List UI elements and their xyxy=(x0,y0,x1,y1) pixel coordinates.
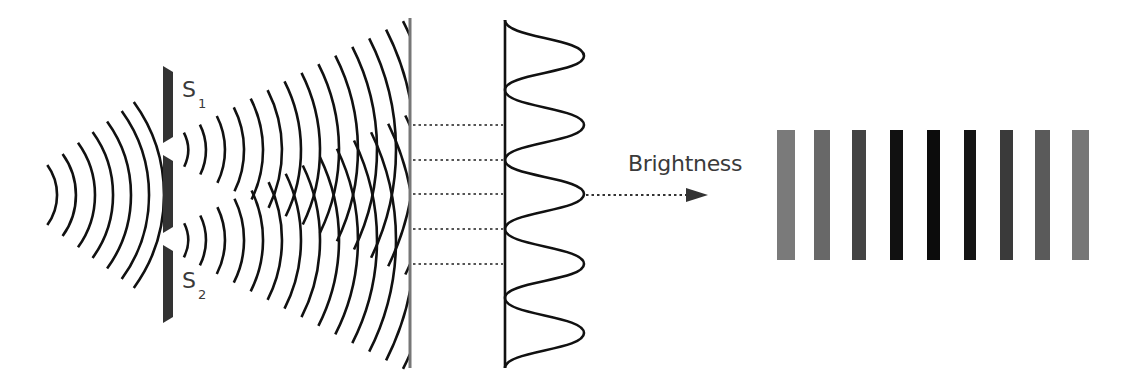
diffracted-arc xyxy=(369,132,396,352)
diffracted-arc xyxy=(184,223,188,257)
fringe-bar xyxy=(777,130,795,260)
fringe-bar xyxy=(814,130,830,260)
fringe-bar xyxy=(927,130,940,260)
brightness-arrow-icon xyxy=(586,188,708,202)
arrow-head-icon xyxy=(686,188,708,202)
diffracted-arc xyxy=(268,182,282,300)
diffracted-arc xyxy=(234,199,244,283)
slit1-letter: S xyxy=(182,77,196,102)
wavefront-arc xyxy=(78,143,95,248)
fringe-bar xyxy=(1072,130,1089,260)
diffracted-arc xyxy=(251,191,263,292)
fringe-bar xyxy=(1000,130,1013,260)
slit1-label: S1 xyxy=(182,79,204,101)
diffracted-arc xyxy=(251,99,263,200)
diffracted-arc xyxy=(285,81,301,216)
barrier-segment xyxy=(163,245,173,323)
slit2-subscript: 2 xyxy=(198,287,206,302)
double-slit-diagram xyxy=(0,0,1131,390)
diffracted-arc xyxy=(184,133,188,167)
barrier-segment xyxy=(163,155,173,233)
diffracted-arc xyxy=(217,116,225,183)
diffracted-arc xyxy=(403,21,434,274)
diffracted-arc xyxy=(217,207,225,274)
fringe-bar xyxy=(890,130,903,260)
slit2-label: S2 xyxy=(182,270,204,292)
diffracted-arc xyxy=(302,73,321,225)
fringe-bar xyxy=(964,130,976,260)
diffracted-wavefronts xyxy=(184,21,434,369)
wavefront-arc xyxy=(122,111,149,279)
diffracted-arc xyxy=(369,38,396,257)
diffracted-arc xyxy=(268,90,282,208)
intensity-curve xyxy=(505,20,584,368)
diffracted-arc xyxy=(200,216,206,266)
projection-dotted-lines xyxy=(413,125,503,264)
wavefront-arc xyxy=(47,165,57,225)
double-slit-barrier xyxy=(163,66,173,323)
diffracted-arc xyxy=(234,107,244,191)
fringe-bar xyxy=(1035,130,1050,260)
diffracted-arc xyxy=(403,116,434,369)
barrier-segment xyxy=(163,66,173,143)
diffracted-arc xyxy=(200,125,206,175)
fringe-bar xyxy=(852,130,866,260)
brightness-label: Brightness xyxy=(628,153,742,175)
intensity-wave xyxy=(505,20,584,368)
diffracted-arc xyxy=(285,174,301,309)
incident-wavefronts xyxy=(47,102,164,288)
fringe-pattern xyxy=(777,130,1089,260)
wavefront-arc xyxy=(107,122,131,269)
slit2-letter: S xyxy=(182,268,196,293)
slit1-subscript: 1 xyxy=(198,96,206,111)
wavefront-arc xyxy=(63,154,76,236)
diffracted-arc xyxy=(302,166,321,318)
